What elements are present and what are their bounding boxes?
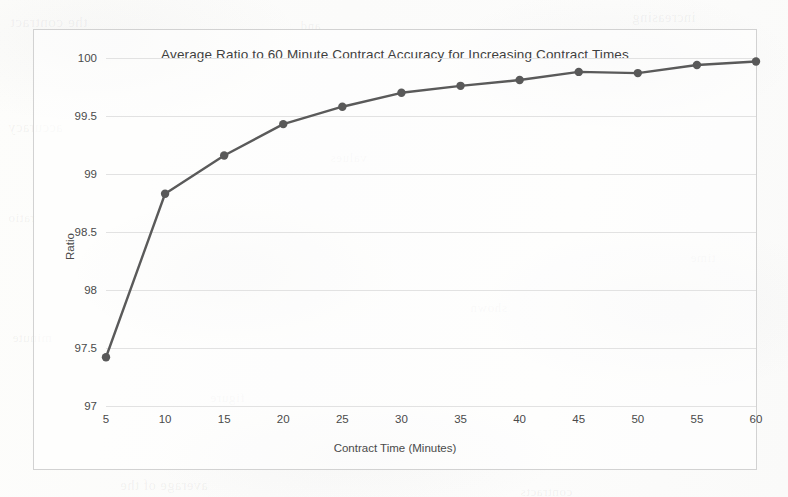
- data-point-marker: 40, 99.81: [515, 76, 523, 84]
- data-point-marker: 5, 97.42: [102, 353, 110, 361]
- x-axis-title: Contract Time (Minutes): [34, 442, 756, 454]
- data-point-marker: 10, 98.83: [161, 190, 169, 198]
- y-tick-label: 99.5: [75, 110, 97, 122]
- data-series-line: 5, 97.4210, 98.8315, 99.1620, 99.4325, 9…: [106, 58, 756, 406]
- x-tick-label: 10: [159, 413, 172, 425]
- x-tick-label: 25: [336, 413, 349, 425]
- series-polyline: [106, 61, 756, 357]
- x-tick-label: 35: [454, 413, 467, 425]
- x-tick-label: 55: [691, 413, 704, 425]
- data-point-marker: 25, 99.58: [338, 103, 346, 111]
- data-point-marker: 60, 99.97: [752, 57, 760, 65]
- x-tick-label: 40: [513, 413, 526, 425]
- data-point-marker: 15, 99.16: [220, 151, 228, 159]
- x-tick-label: 60: [750, 413, 763, 425]
- y-tick-label: 98.5: [75, 226, 97, 238]
- gridline: [106, 406, 756, 407]
- y-tick-label: 97.5: [75, 342, 97, 354]
- x-tick-label: 45: [572, 413, 585, 425]
- y-tick-label: 97: [84, 400, 97, 412]
- x-tick-label: 30: [395, 413, 408, 425]
- data-point-marker: 30, 99.7: [397, 89, 405, 97]
- data-point-marker: 35, 99.76: [456, 82, 464, 90]
- data-point-marker: 55, 99.94: [693, 61, 701, 69]
- data-point-marker: 50, 99.87: [634, 69, 642, 77]
- data-point-marker: 20, 99.43: [279, 120, 287, 128]
- x-tick-label: 15: [218, 413, 231, 425]
- x-tick-label: 50: [631, 413, 644, 425]
- plot-area: 9797.59898.59999.5100 510152025303540455…: [106, 58, 756, 406]
- y-tick-label: 98: [84, 284, 97, 296]
- y-tick-label: 100: [78, 52, 97, 64]
- x-tick-label: 5: [103, 413, 109, 425]
- data-point-marker: 45, 99.88: [575, 68, 583, 76]
- y-tick-label: 99: [84, 168, 97, 180]
- x-tick-label: 20: [277, 413, 290, 425]
- chart-frame: Average Ratio to 60 Minute Contract Accu…: [33, 29, 757, 470]
